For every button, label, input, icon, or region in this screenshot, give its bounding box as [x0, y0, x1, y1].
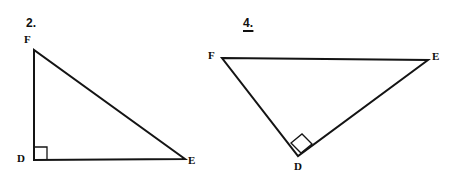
figure-4-vertex-label-e: E: [432, 51, 439, 62]
figure-4-vertex-label-d: D: [294, 161, 302, 172]
worksheet-canvas: 2. F D E 4. F E D: [0, 0, 457, 185]
figure-2-vertex-label-d: D: [17, 153, 25, 164]
figure-4-triangle: [222, 58, 428, 156]
figure-4-vertex-label-f: F: [208, 50, 215, 61]
figure-2-vertex-label-f: F: [24, 34, 31, 45]
figures-svg-layer: [0, 0, 457, 185]
figure-2-vertex-label-e: E: [188, 155, 195, 166]
figure-2-number: 2.: [26, 17, 36, 29]
figure-4-number: 4.: [243, 17, 253, 29]
figure-2-triangle-outline: [34, 50, 185, 160]
figure-2-triangle: [34, 50, 185, 160]
figure-4-triangle-outline: [222, 58, 428, 156]
figure-2-right-angle-marker: [34, 147, 47, 160]
